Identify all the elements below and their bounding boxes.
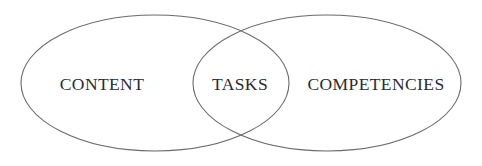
set-label-competencies: COMPETENCIES xyxy=(307,76,444,94)
set-label-content: CONTENT xyxy=(60,76,144,94)
venn-diagram: CONTENT TASKS COMPETENCIES xyxy=(0,0,482,166)
set-label-tasks: TASKS xyxy=(212,76,268,94)
